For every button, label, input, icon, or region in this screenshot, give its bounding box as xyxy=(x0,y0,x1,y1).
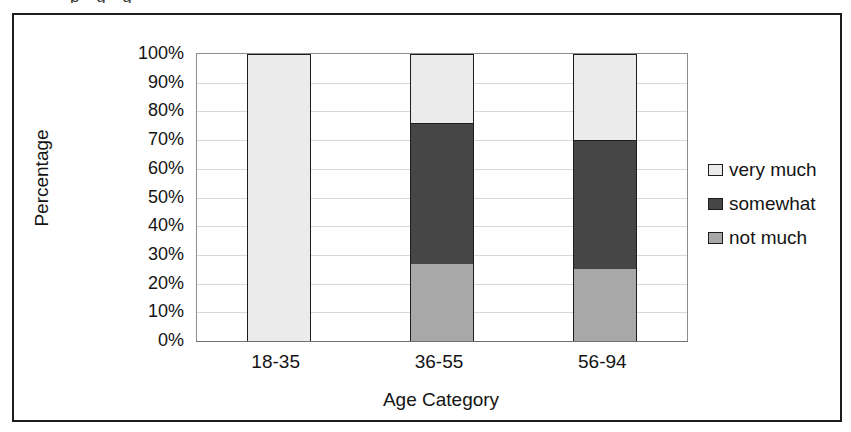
x-axis-tick-18-35: 18-35 xyxy=(194,351,357,373)
y-axis-tick-100pct: 100% xyxy=(98,43,184,63)
plot-area xyxy=(196,53,688,342)
x-axis-title: Age Category xyxy=(196,389,686,411)
legend-swatch-icon-very-much xyxy=(708,164,723,176)
bar-segment-56-94-very-much[interactable] xyxy=(573,54,637,140)
legend-label: not much xyxy=(729,227,807,249)
bar-segment-56-94-not-much[interactable] xyxy=(573,269,637,341)
legend-swatch-icon-not-much xyxy=(708,232,723,244)
chart-frame: Percentage 100%90%80%70%60%50%40%30%20%1… xyxy=(12,13,842,422)
y-axis-tick-0pct: 0% xyxy=(98,330,184,350)
y-axis-tick-70pct: 70% xyxy=(98,129,184,149)
legend-label: very much xyxy=(729,159,817,181)
y-axis-tick-20pct: 20% xyxy=(98,273,184,293)
legend-item-somewhat[interactable]: somewhat xyxy=(708,189,848,219)
figure-container: p g g Percentage 100%90%80%70%60%50%40%3… xyxy=(0,0,851,432)
y-axis-tick-40pct: 40% xyxy=(98,215,184,235)
y-axis-tick-labels: 100%90%80%70%60%50%40%30%20%10%0% xyxy=(98,43,190,350)
y-axis-tick-10pct: 10% xyxy=(98,301,184,321)
bar-56-94[interactable] xyxy=(573,54,637,341)
y-axis-tick-60pct: 60% xyxy=(98,158,184,178)
chart-legend: very muchsomewhatnot much xyxy=(708,155,848,257)
y-axis-tick-80pct: 80% xyxy=(98,100,184,120)
bar-36-55[interactable] xyxy=(410,54,474,341)
y-axis-tick-90pct: 90% xyxy=(98,72,184,92)
bar-segment-18-35-very-much[interactable] xyxy=(247,54,311,341)
bar-segment-36-55-not-much[interactable] xyxy=(410,264,474,341)
legend-item-not-much[interactable]: not much xyxy=(708,223,848,253)
y-axis-title: Percentage xyxy=(31,88,53,268)
x-axis-line xyxy=(196,341,688,342)
x-axis-tick-36-55: 36-55 xyxy=(357,351,520,373)
y-axis-tick-30pct: 30% xyxy=(98,244,184,264)
legend-item-very-much[interactable]: very much xyxy=(708,155,848,185)
bar-segment-36-55-somewhat[interactable] xyxy=(410,123,474,264)
clipped-caption-sliver: p g g xyxy=(0,0,851,3)
legend-swatch-icon-somewhat xyxy=(708,198,723,210)
x-axis-tick-56-94: 56-94 xyxy=(521,351,684,373)
y-axis-tick-50pct: 50% xyxy=(98,187,184,207)
bar-segment-36-55-very-much[interactable] xyxy=(410,54,474,123)
legend-label: somewhat xyxy=(729,193,816,215)
bar-18-35[interactable] xyxy=(247,54,311,341)
bar-segment-56-94-somewhat[interactable] xyxy=(573,140,637,269)
